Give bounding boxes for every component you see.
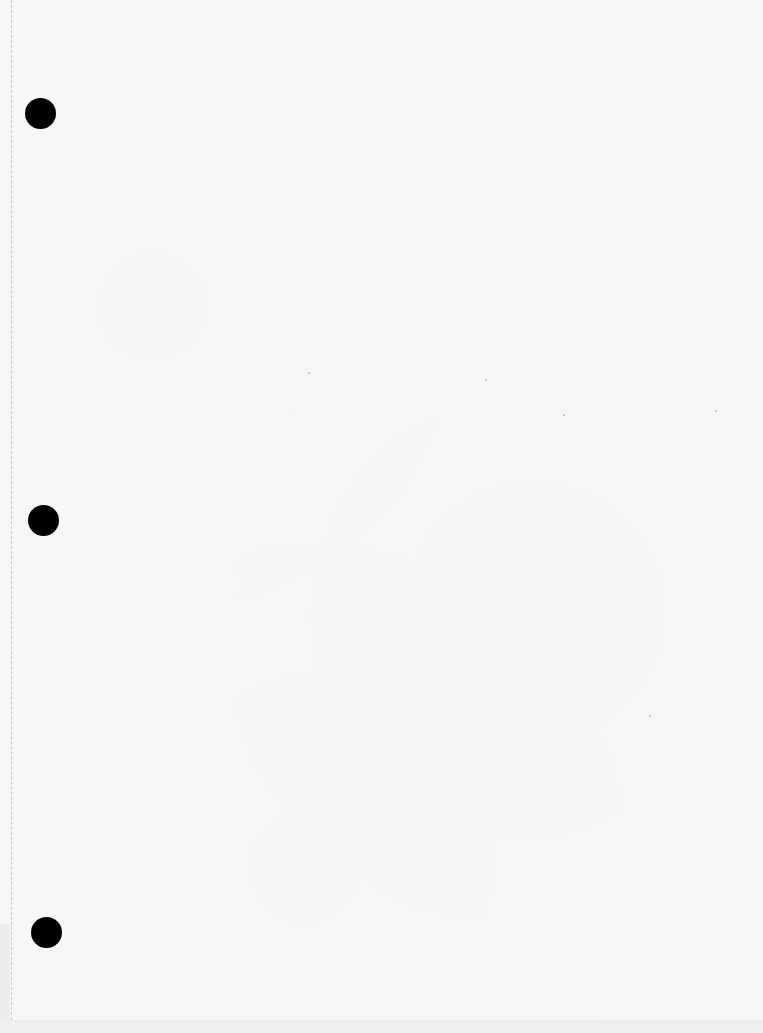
perforation-line <box>11 0 12 1020</box>
paper-speck <box>308 372 310 374</box>
punch-hole-top <box>25 98 56 129</box>
paper-speck <box>485 379 487 381</box>
scan-edge-shade <box>0 924 10 1020</box>
punch-hole-middle <box>28 505 59 536</box>
paper-speck <box>649 715 651 717</box>
punch-hole-bottom <box>31 917 62 948</box>
blank-page <box>0 0 763 1020</box>
paper-speck <box>563 414 565 416</box>
paper-speck <box>715 410 717 412</box>
scan-bottom-edge <box>0 1020 763 1033</box>
